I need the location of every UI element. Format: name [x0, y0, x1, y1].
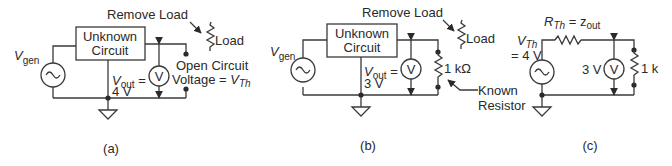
- terminal-top: [183, 51, 188, 56]
- vout-value: 3 V: [364, 76, 384, 91]
- source-label: Vgen: [270, 44, 295, 62]
- box-label-2: Circuit: [92, 43, 129, 58]
- known-resistor-icon: [435, 52, 442, 87]
- wire-output-top: [145, 44, 186, 53]
- rth-resistor-icon: [555, 36, 581, 44]
- ground-icon: [352, 107, 370, 116]
- caption-b: (b): [360, 138, 376, 153]
- known-resistor-arrow: [448, 80, 478, 90]
- load-resistor-icon: [458, 20, 465, 49]
- junction-dot: [358, 92, 363, 97]
- wire-source-top: [53, 46, 76, 63]
- open-circuit-label: Open Circuit: [176, 58, 249, 73]
- panel-b: Unknown Circuit Vgen Vout = 3 V V 1 kΩ R…: [270, 5, 526, 153]
- load-resistor-icon: [207, 22, 214, 51]
- remove-load-arrow: [190, 22, 201, 33]
- resistor-caption: Resistor: [478, 98, 526, 113]
- source-label: Vgen: [14, 48, 39, 66]
- load-label: Load: [215, 33, 244, 48]
- meter-value: 3 V: [582, 62, 602, 77]
- ground-icon: [533, 107, 551, 116]
- panel-a: Unknown Circuit Vgen Vout = 4 V V Remove…: [14, 7, 251, 156]
- box-label-1: Unknown: [335, 26, 389, 41]
- box-label-1: Unknown: [83, 29, 137, 44]
- box-label-2: Circuit: [344, 40, 381, 55]
- meter-label: V: [610, 62, 619, 77]
- terminal-bottom: [183, 86, 188, 91]
- known-label: Known: [478, 83, 518, 98]
- vth-value: = 4 V: [511, 48, 542, 63]
- wire-source-top: [542, 40, 555, 60]
- junction-dot: [539, 92, 544, 97]
- thevenin-measurement-diagram: Unknown Circuit Vgen Vout = 4 V V Remove…: [0, 0, 672, 166]
- caption-c: (c): [582, 138, 597, 153]
- caption-a: (a): [103, 141, 119, 156]
- vout-value: 4 V: [112, 84, 132, 99]
- panel-c: RTh = zout VTh = 4 V V 3 V 1 k (c): [511, 14, 659, 153]
- wire-output-top: [397, 40, 438, 52]
- load-label: Load: [466, 31, 495, 46]
- ground-icon: [99, 110, 117, 119]
- meter-label: V: [407, 62, 416, 77]
- meter-label: V: [155, 69, 164, 84]
- remove-load-arrow: [443, 20, 454, 31]
- remove-load-label: Remove Load: [362, 5, 443, 20]
- resistor-label: 1 k: [641, 61, 659, 76]
- load-resistor-icon: [631, 50, 638, 85]
- resistor-label: 1 kΩ: [444, 61, 471, 76]
- junction-dot: [105, 95, 110, 100]
- open-circuit-voltage-label: Voltage = VTh: [172, 72, 251, 89]
- rth-label: RTh = zout: [544, 14, 601, 31]
- wire-output-top: [581, 40, 634, 50]
- remove-load-label: Remove Load: [107, 7, 188, 22]
